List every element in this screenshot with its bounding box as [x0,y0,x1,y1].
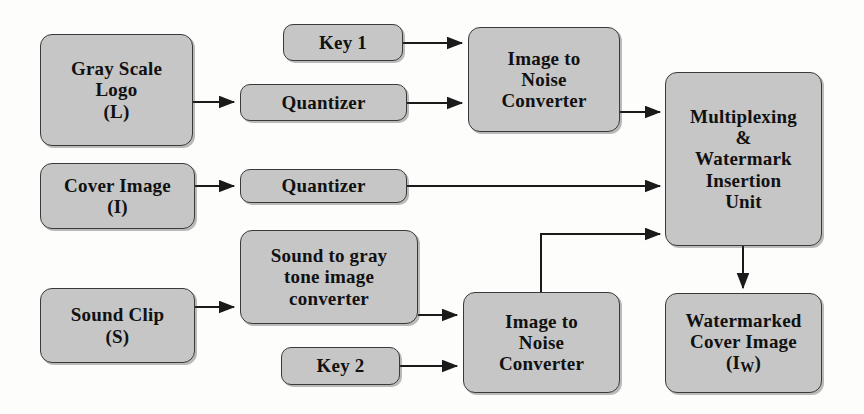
node-label: WatermarkedCover Image(IW) [670,310,817,376]
node-label: Key 1 [288,32,398,53]
edge-noise-bottom-to-multiplexer [541,234,660,292]
node-multiplexing-watermark-insertion-unit[interactable]: Multiplexing & Watermark Insertion Unit [665,72,822,246]
node-label: Sound Clip (S) [45,304,190,347]
node-watermarked-cover-image[interactable]: WatermarkedCover Image(IW) [665,293,822,393]
diagram-canvas: Gray Scale Logo (L) Key 1 Quantizer Imag… [0,0,864,414]
node-label: Quantizer [245,175,402,196]
node-image-to-noise-converter-top[interactable]: Image to Noise Converter [468,27,620,132]
node-label: Image to Noise Converter [468,311,615,375]
node-image-to-noise-converter-bottom[interactable]: Image to Noise Converter [463,292,620,393]
node-key-1[interactable]: Key 1 [283,24,403,61]
node-label: Quantizer [245,92,402,113]
node-label: Cover Image (I) [45,175,190,218]
node-label: Sound to gray tone image converter [245,245,413,309]
node-label: Multiplexing & Watermark Insertion Unit [670,106,817,212]
node-key-2[interactable]: Key 2 [281,347,400,385]
node-cover-image[interactable]: Cover Image (I) [40,163,195,229]
node-sound-clip[interactable]: Sound Clip (S) [40,288,195,363]
node-label: Gray Scale Logo (L) [45,58,188,122]
node-gray-scale-logo[interactable]: Gray Scale Logo (L) [40,34,193,146]
node-quantizer-logo[interactable]: Quantizer [240,84,407,121]
node-label: Key 2 [286,355,395,376]
node-label: Image to Noise Converter [473,48,615,112]
node-quantizer-cover[interactable]: Quantizer [240,169,407,203]
node-sound-to-gray-tone-image-converter[interactable]: Sound to gray tone image converter [240,230,418,324]
